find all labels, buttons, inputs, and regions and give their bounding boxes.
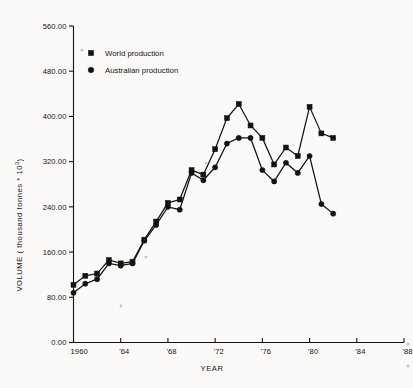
data-point-circle bbox=[307, 153, 312, 158]
x-axis-title: YEAR bbox=[201, 364, 224, 373]
data-point-square bbox=[248, 123, 253, 128]
data-point-circle bbox=[201, 178, 206, 183]
data-point-circle bbox=[165, 204, 170, 209]
data-point-square bbox=[83, 273, 88, 278]
legend-marker-square bbox=[88, 50, 93, 55]
x-tick-label: '88 bbox=[403, 347, 413, 356]
data-point-square bbox=[95, 271, 100, 276]
data-series-group bbox=[71, 101, 336, 295]
data-point-circle bbox=[189, 170, 194, 175]
data-point-circle bbox=[283, 160, 288, 165]
data-point-circle bbox=[154, 222, 159, 227]
y-tick-label: 320.00 bbox=[43, 157, 67, 166]
legend-marker-circle bbox=[88, 67, 94, 73]
y-tick-label: 240.00 bbox=[43, 203, 67, 212]
x-tick-label: '72 bbox=[214, 347, 224, 356]
scan-artifacts bbox=[80, 48, 409, 367]
data-point-circle bbox=[106, 261, 111, 266]
data-point-circle bbox=[260, 168, 265, 173]
data-point-square bbox=[213, 147, 218, 152]
x-axis-ticks: 1960'64'68'72'76'80'84'88 bbox=[71, 338, 413, 356]
data-point-square bbox=[283, 145, 288, 150]
data-point-circle bbox=[248, 135, 253, 140]
x-tick-label: '76 bbox=[261, 347, 271, 356]
data-point-circle bbox=[130, 261, 135, 266]
data-point-circle bbox=[118, 263, 123, 268]
y-tick-label: 400.00 bbox=[43, 112, 67, 121]
data-point-square bbox=[307, 104, 312, 109]
data-point-square bbox=[177, 197, 182, 202]
y-axis-title: VOLUME ( thousand tonnes * 103) bbox=[14, 158, 24, 291]
y-tick-label: 0.00 bbox=[51, 338, 66, 347]
y-axis-ticks: 0.0080.00160.00240.00320.00400.00480.005… bbox=[43, 22, 74, 348]
x-tick-label: '68 bbox=[166, 347, 176, 356]
data-point-square bbox=[272, 162, 277, 167]
production-volume-line-chart: 0.0080.00160.00240.00320.00400.00480.005… bbox=[0, 0, 413, 388]
data-point-circle bbox=[224, 141, 229, 146]
data-point-circle bbox=[319, 201, 324, 206]
data-point-circle bbox=[331, 211, 336, 216]
data-point-circle bbox=[236, 135, 241, 140]
y-tick-label: 160.00 bbox=[43, 248, 67, 257]
x-tick-label: '80 bbox=[308, 347, 318, 356]
data-point-circle bbox=[177, 207, 182, 212]
series-australian bbox=[71, 135, 336, 295]
data-point-circle bbox=[83, 281, 88, 286]
legend-label: Australian production bbox=[105, 66, 178, 75]
x-tick-label: 1960 bbox=[71, 347, 88, 356]
data-point-square bbox=[319, 131, 324, 136]
data-point-circle bbox=[71, 290, 76, 295]
chart-legend: World productionAustralian production bbox=[88, 49, 178, 75]
data-point-square bbox=[201, 172, 206, 177]
x-tick-label: '64 bbox=[119, 347, 129, 356]
data-point-circle bbox=[142, 238, 147, 243]
data-point-circle bbox=[272, 179, 277, 184]
y-tick-label: 480.00 bbox=[43, 67, 67, 76]
data-point-square bbox=[260, 135, 265, 140]
series-world bbox=[71, 101, 336, 287]
data-point-square bbox=[295, 153, 300, 158]
data-point-square bbox=[331, 135, 336, 140]
y-tick-label: 80.00 bbox=[47, 293, 67, 302]
data-point-square bbox=[224, 116, 229, 121]
y-tick-label: 560.00 bbox=[43, 22, 67, 31]
legend-label: World production bbox=[105, 49, 164, 58]
data-point-circle bbox=[95, 277, 100, 282]
data-point-circle bbox=[295, 170, 300, 175]
data-point-square bbox=[236, 101, 241, 106]
data-point-circle bbox=[213, 165, 218, 170]
x-tick-label: '84 bbox=[355, 347, 365, 356]
data-point-square bbox=[71, 282, 76, 287]
